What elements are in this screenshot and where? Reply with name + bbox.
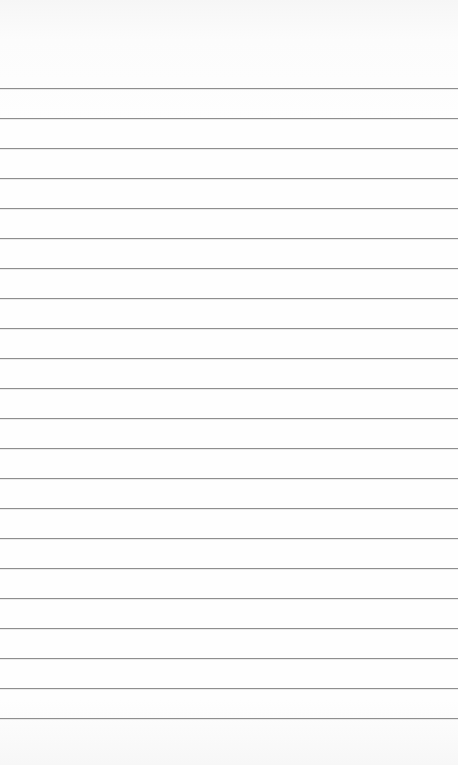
ruled-line — [0, 178, 458, 179]
ruled-line — [0, 88, 458, 89]
ruled-line — [0, 358, 458, 359]
ruled-line — [0, 298, 458, 299]
ruled-line — [0, 418, 458, 419]
ruled-line — [0, 448, 458, 449]
ruled-line — [0, 598, 458, 599]
ruled-line — [0, 688, 458, 689]
ruled-line — [0, 148, 458, 149]
ruled-line — [0, 478, 458, 479]
ruled-line — [0, 118, 458, 119]
ruled-line — [0, 538, 458, 539]
ruled-line — [0, 238, 458, 239]
ruled-line — [0, 328, 458, 329]
ruled-line — [0, 718, 458, 719]
ruled-line — [0, 658, 458, 659]
ruled-line — [0, 508, 458, 509]
ruled-line — [0, 388, 458, 389]
ruled-line — [0, 268, 458, 269]
ruled-line — [0, 628, 458, 629]
ruled-line — [0, 208, 458, 209]
lined-paper — [0, 0, 458, 765]
ruled-line — [0, 568, 458, 569]
